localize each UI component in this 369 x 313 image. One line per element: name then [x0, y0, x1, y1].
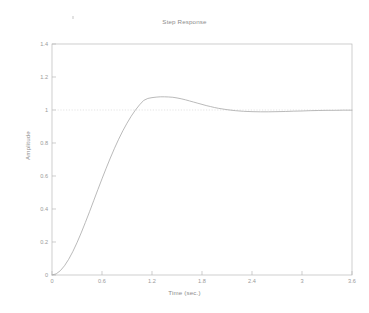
- y-tick-label-1-4: 1.4: [32, 41, 48, 47]
- plot-canvas: [0, 0, 369, 313]
- x-tick-label-3-6: 3.6: [348, 278, 356, 284]
- y-tick-label-0-4: 0.4: [32, 206, 48, 212]
- x-tick-label-1-8: 1.8: [198, 278, 206, 284]
- y-tick-label-0-8: 0.8: [32, 140, 48, 146]
- y-tick-label-0-6: 0.6: [32, 173, 48, 179]
- x-tick-marks: [52, 271, 352, 275]
- plot-frame: [52, 44, 352, 275]
- y-tick-label-1: 1: [36, 107, 48, 113]
- step-response-figure: Step Response 0: [0, 0, 369, 313]
- y-tick-marks: [52, 44, 56, 275]
- step-response-curve: [52, 97, 352, 275]
- x-tick-label-0-6: 0.6: [98, 278, 106, 284]
- y-tick-label-0: 0: [36, 272, 48, 278]
- x-tick-label-1-2: 1.2: [148, 278, 156, 284]
- x-tick-label-2-4: 2.4: [248, 278, 256, 284]
- x-tick-label-3: 3: [300, 278, 303, 284]
- x-axis-label: Time (sec.): [0, 289, 369, 296]
- x-tick-label-0: 0: [50, 278, 53, 284]
- y-tick-label-1-2: 1.2: [32, 74, 48, 80]
- y-axis-label: Amplitude: [24, 131, 31, 160]
- y-tick-label-0-2: 0.2: [32, 239, 48, 245]
